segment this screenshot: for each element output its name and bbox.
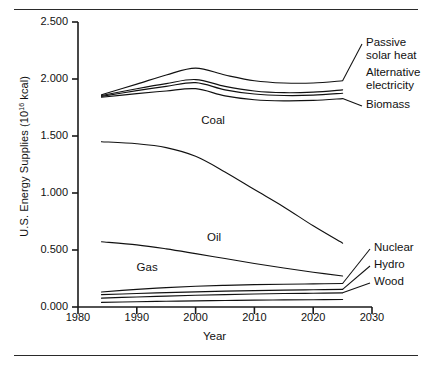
leader-line xyxy=(343,99,362,106)
series-label-wood: Wood xyxy=(374,275,404,288)
figure: U.S. Energy Supplies (1016 kcal) Year 0.… xyxy=(0,0,429,368)
series-label-line: Alternative xyxy=(366,66,420,79)
y-tick-label: 2.500 xyxy=(14,15,68,27)
y-tick-label: 1.000 xyxy=(14,186,68,198)
series-label-hydro: Hydro xyxy=(374,258,405,271)
x-tick-label: 2010 xyxy=(229,311,279,323)
series-line xyxy=(102,142,343,243)
series-label-passive-solar-heat: Passivesolar heat xyxy=(366,36,417,62)
series-label-line: Hydro xyxy=(374,258,405,271)
leader-line xyxy=(343,283,370,293)
y-tick-label: 2.000 xyxy=(14,72,68,84)
x-tick-label: 2030 xyxy=(347,311,397,323)
annotation-coal: Coal xyxy=(201,114,225,126)
series-label-alternative-electricity: Alternativeelectricity xyxy=(366,66,420,92)
series-line xyxy=(102,83,343,97)
series-label-line: Passive xyxy=(366,36,417,49)
series-label-nuclear: Nuclear xyxy=(374,241,414,254)
annotation-gas: Gas xyxy=(137,261,158,273)
annotation-oil: Oil xyxy=(207,231,221,243)
y-tick-label: 0.500 xyxy=(14,243,68,255)
series-label-biomass: Biomass xyxy=(366,98,410,111)
series-line xyxy=(102,299,343,302)
series-label-line: Wood xyxy=(374,275,404,288)
leader-line xyxy=(343,44,362,81)
x-tick-label: 2020 xyxy=(288,311,338,323)
axis-ticks xyxy=(72,22,372,314)
y-tick-label: 1.500 xyxy=(14,129,68,141)
x-tick-label: 2000 xyxy=(171,311,221,323)
series-label-line: electricity xyxy=(366,79,420,92)
series-label-line: Nuclear xyxy=(374,241,414,254)
x-tick-label: 1980 xyxy=(53,311,103,323)
x-tick-label: 1990 xyxy=(112,311,162,323)
series-label-line: solar heat xyxy=(366,49,417,62)
axes xyxy=(78,22,372,307)
series-label-line: Biomass xyxy=(366,98,410,111)
series-line xyxy=(102,289,343,294)
